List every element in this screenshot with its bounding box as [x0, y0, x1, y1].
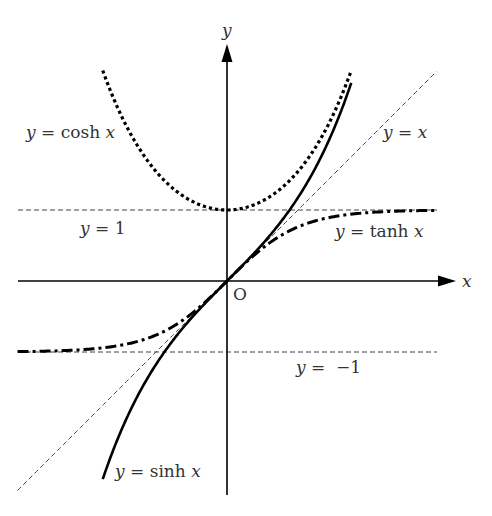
- cosh-label-var: x: [106, 122, 116, 142]
- y-axis-label: y: [221, 20, 232, 40]
- identity-label-var: x: [418, 122, 428, 142]
- minus-one-label-lhs: y: [295, 357, 306, 377]
- minus-one-label-eq: = −1: [306, 357, 362, 377]
- cosh-label-eq: = cosh: [36, 122, 106, 142]
- tanh-label: y = tanh x: [334, 221, 424, 241]
- plus-one-label-lhs: y: [79, 218, 90, 238]
- asymptote-minus-one-label: y = −1: [295, 357, 361, 377]
- sinh-label: y = sinh x: [114, 461, 201, 481]
- cosh-label-lhs: y: [25, 122, 36, 142]
- sinh-label-eq: = sinh: [125, 461, 192, 481]
- asymptote-plus-one-label: y = 1: [79, 218, 125, 238]
- identity-label-lhs: y: [382, 122, 393, 142]
- tanh-label-eq: = tanh: [345, 221, 414, 241]
- y-axis-arrow-icon: [222, 44, 233, 62]
- x-axis-label: x: [462, 271, 472, 291]
- cosh-label: y = cosh x: [25, 122, 116, 142]
- tanh-label-var: x: [414, 221, 424, 241]
- identity-label-eq: =: [393, 122, 418, 142]
- identity-label: y = x: [382, 122, 428, 142]
- x-axis-arrow-icon: [438, 276, 456, 287]
- hyperbolic-functions-diagram: y x O y = cosh x y = x y = tanh x y = si…: [0, 0, 492, 516]
- origin-label: O: [233, 284, 247, 304]
- plus-one-label-eq: = 1: [90, 218, 126, 238]
- sinh-label-var: x: [191, 461, 201, 481]
- sinh-label-lhs: y: [114, 461, 125, 481]
- tanh-label-lhs: y: [334, 221, 345, 241]
